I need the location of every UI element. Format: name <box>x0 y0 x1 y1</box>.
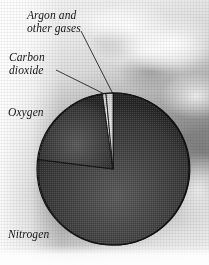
slice-label-carbon-dioxide: Carbon dioxide <box>9 51 45 76</box>
pie-chart-svg <box>0 0 209 265</box>
slice-label-argon-and-other-gases: Argon and other gases <box>27 9 81 34</box>
leader-line-argon <box>81 31 113 93</box>
leader-line-carbon-dioxide <box>56 70 104 94</box>
slice-label-oxygen: Oxygen <box>8 106 44 119</box>
atmosphere-pie-chart-figure: Argon and other gases Carbon dioxide Oxy… <box>0 0 209 265</box>
slice-label-nitrogen: Nitrogen <box>8 228 49 241</box>
pie-grain-texture <box>38 94 189 245</box>
